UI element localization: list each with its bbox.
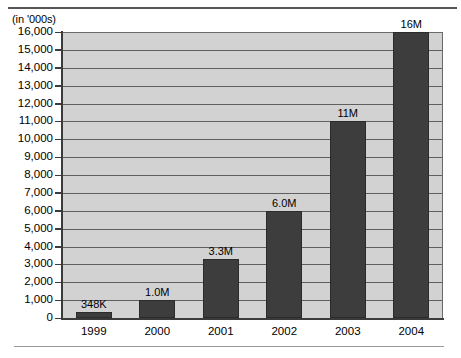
- x-axis-label: 2001: [191, 325, 251, 338]
- x-axis-line: [61, 318, 444, 320]
- y-axis-label: 1,000: [1, 294, 53, 306]
- y-axis-label-wrap: 6,000: [0, 205, 53, 217]
- y-axis-tick: [55, 103, 62, 105]
- y-axis-label: 7,000: [1, 187, 53, 199]
- y-axis-label-wrap: 16,000: [0, 26, 53, 38]
- x-axis-label: 2002: [254, 325, 314, 338]
- bar-value-label: 1.0M: [127, 286, 187, 298]
- bar: [203, 259, 239, 318]
- gridline: [62, 50, 442, 51]
- y-axis-tick: [55, 32, 62, 34]
- y-axis-label-wrap: 2,000: [0, 276, 53, 288]
- y-axis-label: 5,000: [1, 223, 53, 235]
- y-axis-label: 2,000: [1, 276, 53, 288]
- y-axis-tick: [55, 300, 62, 302]
- y-axis-label-wrap: 15,000: [0, 44, 53, 56]
- y-axis-label-wrap: 0: [0, 312, 53, 324]
- y-axis-tick: [55, 228, 62, 230]
- y-axis-label: 14,000: [1, 62, 53, 74]
- y-axis-label: 13,000: [1, 80, 53, 92]
- y-axis-label: 9,000: [1, 151, 53, 163]
- y-axis-label-wrap: 13,000: [0, 80, 53, 92]
- gridline: [62, 175, 442, 176]
- y-axis-label-wrap: 7,000: [0, 187, 53, 199]
- y-axis-tick: [55, 157, 62, 159]
- x-axis-label: 2003: [318, 325, 378, 338]
- bar-value-label: 3.3M: [191, 245, 251, 257]
- gridline: [62, 104, 442, 105]
- x-axis-label: 2004: [381, 325, 441, 338]
- y-axis-label-wrap: 10,000: [0, 133, 53, 145]
- y-axis-tick: [55, 121, 62, 123]
- y-axis-label: 10,000: [1, 133, 53, 145]
- y-axis-label: 11,000: [1, 115, 53, 127]
- y-axis-label: 4,000: [1, 241, 53, 253]
- y-axis-tick: [55, 264, 62, 266]
- y-axis-tick: [55, 85, 62, 87]
- x-axis-label: 2000: [127, 325, 187, 338]
- gridline: [62, 211, 442, 212]
- y-axis-tick: [55, 318, 62, 320]
- y-axis-label-wrap: 11,000: [0, 115, 53, 127]
- y-axis-label: 6,000: [1, 205, 53, 217]
- gridline: [62, 139, 442, 140]
- y-axis-tick: [55, 139, 62, 141]
- bar-value-label: 16M: [381, 18, 441, 30]
- gridline: [62, 157, 442, 158]
- y-axis-label: 3,000: [1, 258, 53, 270]
- y-axis-label: 8,000: [1, 169, 53, 181]
- bar: [139, 300, 175, 318]
- bar: [393, 32, 429, 318]
- gridline: [62, 68, 442, 69]
- y-axis-label-wrap: 5,000: [0, 223, 53, 235]
- y-axis-label: 12,000: [1, 98, 53, 110]
- bar: [330, 121, 366, 318]
- bottom-divider-rule: [14, 346, 444, 347]
- y-axis-tick: [55, 192, 62, 194]
- y-axis-tick: [55, 246, 62, 248]
- bar-chart: 16,00015,00014,00013,00012,00011,00010,0…: [0, 0, 461, 358]
- y-axis-label: 15,000: [1, 44, 53, 56]
- y-axis-tick: [55, 282, 62, 284]
- y-axis-label: 0: [1, 312, 53, 324]
- gridline: [62, 282, 442, 283]
- bar: [76, 312, 112, 318]
- y-axis-tick: [55, 175, 62, 177]
- y-axis-label: 16,000: [1, 26, 53, 38]
- bar-value-label: 348K: [64, 298, 124, 310]
- gridline: [62, 229, 442, 230]
- y-axis-label-wrap: 8,000: [0, 169, 53, 181]
- gridline: [62, 193, 442, 194]
- bar-value-label: 11M: [318, 107, 378, 119]
- bar: [266, 211, 302, 318]
- y-axis-label-wrap: 3,000: [0, 258, 53, 270]
- y-axis-tick: [55, 210, 62, 212]
- bar-value-label: 6.0M: [254, 197, 314, 209]
- x-axis-label: 1999: [64, 325, 124, 338]
- y-axis-label-wrap: 9,000: [0, 151, 53, 163]
- y-axis-tick: [55, 49, 62, 51]
- gridline: [62, 86, 442, 87]
- gridline: [62, 247, 442, 248]
- y-axis-label-wrap: 14,000: [0, 62, 53, 74]
- y-axis-label-wrap: 12,000: [0, 98, 53, 110]
- plot-area: [62, 32, 443, 318]
- y-axis-label-wrap: 4,000: [0, 241, 53, 253]
- gridline: [62, 121, 442, 122]
- y-axis-tick: [55, 67, 62, 69]
- y-axis-label-wrap: 1,000: [0, 294, 53, 306]
- gridline: [62, 32, 442, 33]
- gridline: [62, 264, 442, 265]
